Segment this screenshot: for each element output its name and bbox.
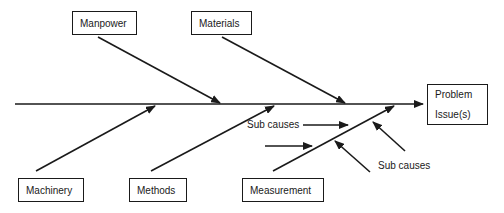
cause-label-machinery: Machinery: [26, 185, 72, 196]
cause-label-manpower: Manpower: [80, 18, 127, 29]
cause-box-machinery: Machinery: [18, 178, 84, 202]
cause-box-methods: Methods: [129, 178, 187, 202]
effect-label-line2: Issue(s): [435, 105, 471, 125]
sub-cause-arrow-4: [335, 141, 370, 172]
sub-cause-arrow-3: [373, 122, 405, 151]
measurement-bone: [273, 106, 394, 171]
cause-box-manpower: Manpower: [72, 11, 137, 35]
cause-label-materials: Materials: [199, 18, 240, 29]
materials-bone: [222, 37, 345, 103]
machinery-bone: [36, 106, 155, 171]
cause-box-measurement: Measurement: [242, 178, 324, 202]
effect-box-problem: Problem Issue(s): [427, 84, 488, 125]
cause-label-measurement: Measurement: [250, 185, 311, 196]
manpower-bone: [98, 37, 220, 103]
cause-label-methods: Methods: [137, 185, 175, 196]
sub-causes-label-right: Sub causes: [378, 160, 430, 171]
sub-causes-label-left: Sub causes: [247, 119, 299, 130]
methods-bone: [151, 106, 274, 171]
cause-box-materials: Materials: [191, 11, 252, 35]
effect-label-line1: Problem: [435, 85, 472, 105]
